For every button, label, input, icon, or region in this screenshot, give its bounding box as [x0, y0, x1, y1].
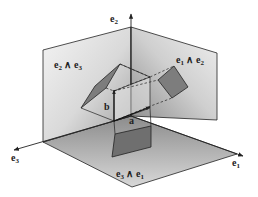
label-e3: e3: [11, 152, 19, 165]
label-vector-a: a: [129, 115, 134, 126]
label-e1: e1: [232, 157, 240, 170]
label-e2: e2: [110, 13, 118, 26]
geometric-algebra-diagram: e2 e3 e1 e2 ∧ e3 e1 ∧ e2 e3 ∧ e1 b a: [0, 0, 258, 197]
label-vector-b: b: [104, 101, 110, 112]
